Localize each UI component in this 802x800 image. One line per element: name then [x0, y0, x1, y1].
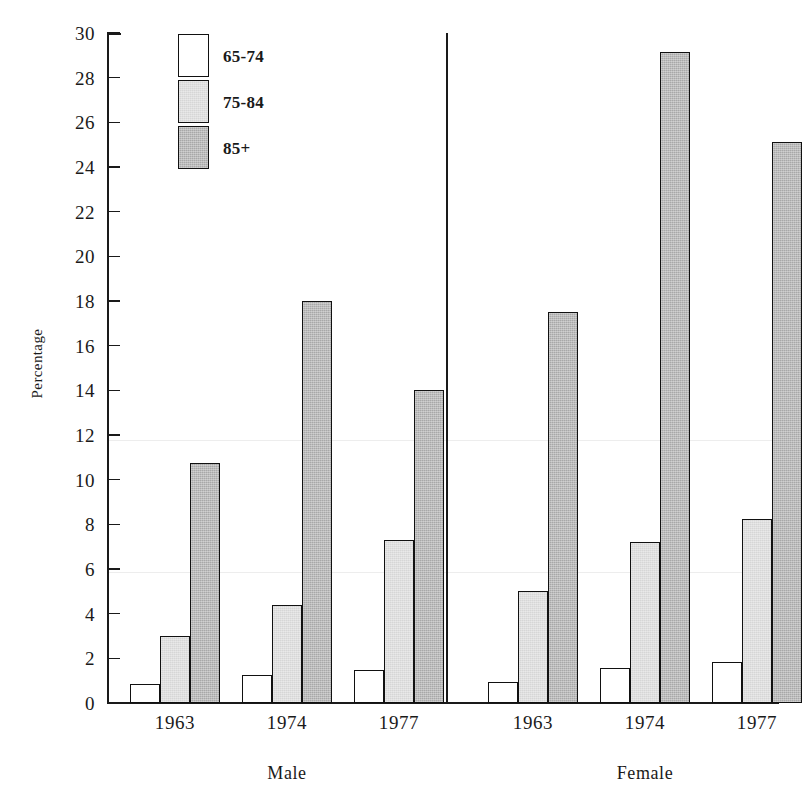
bar-female-1977-65-74: [712, 662, 742, 703]
y-tick-label: 20: [49, 247, 95, 266]
y-tick-label: 26: [49, 113, 95, 132]
bar-male-1977-85+: [414, 390, 444, 703]
bar-male-1977-75-84: [384, 540, 414, 703]
x-tick-label-female-1974: 1974: [600, 712, 690, 734]
y-tick-label: 18: [49, 292, 95, 311]
group-label-female: Female: [565, 763, 725, 784]
legend-label: 85+: [223, 139, 251, 159]
y-tick-label: 22: [49, 203, 95, 222]
bar-female-1963-65-74: [488, 682, 518, 703]
y-tick-label: 0: [49, 694, 95, 713]
y-tick-label: 10: [49, 471, 95, 490]
bar-male-1963-85+: [190, 463, 220, 703]
x-tick-label-male-1963: 1963: [130, 712, 220, 734]
y-tick-label: 24: [49, 158, 95, 177]
y-tick-label: 30: [49, 24, 95, 43]
legend-swatch-icon-white: [178, 34, 209, 77]
y-tick-label: 4: [49, 605, 95, 624]
bar-female-1963-85+: [548, 312, 578, 703]
bar-male-1974-75-84: [272, 605, 302, 703]
y-axis-title: Percentage: [29, 294, 46, 434]
y-tick-label: 8: [49, 515, 95, 534]
group-label-male: Male: [207, 763, 367, 784]
x-tick-label-male-1977: 1977: [354, 712, 444, 734]
legend-swatch-icon-light-gray: [178, 80, 209, 123]
bar-female-1974-85+: [660, 52, 690, 703]
y-tick-label: 28: [49, 69, 95, 88]
x-tick-label-female-1963: 1963: [488, 712, 578, 734]
bar-female-1977-75-84: [742, 519, 772, 703]
bar-female-1974-65-74: [600, 668, 630, 703]
x-tick-label-female-1977: 1977: [712, 712, 802, 734]
legend-label: 75-84: [223, 93, 264, 113]
bar-female-1963-75-84: [518, 591, 548, 703]
y-tick-label: 14: [49, 381, 95, 400]
bar-female-1974-75-84: [630, 542, 660, 703]
bar-male-1963-65-74: [130, 684, 160, 703]
y-tick-label: 2: [49, 649, 95, 668]
bar-male-1977-65-74: [354, 670, 384, 704]
y-tick-label: 16: [49, 337, 95, 356]
bar-male-1974-85+: [302, 301, 332, 703]
legend-label: 65-74: [223, 47, 264, 67]
bar-female-1977-85+: [772, 142, 802, 703]
legend-swatch-icon-dark-gray: [178, 126, 209, 169]
y-tick-label: 6: [49, 560, 95, 579]
bar-male-1963-75-84: [160, 636, 190, 703]
bar-male-1974-65-74: [242, 675, 272, 703]
chart-figure: ˜ ˜ ˜ ˜ ˜ Percentage 3028262422201816141…: [0, 0, 802, 800]
x-tick-label-male-1974: 1974: [242, 712, 332, 734]
y-tick-label: 12: [49, 426, 95, 445]
